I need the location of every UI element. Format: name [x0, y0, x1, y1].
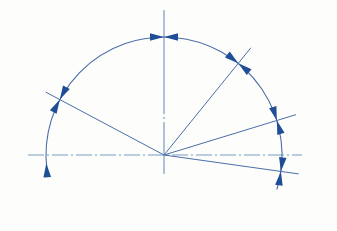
ray-right-below [164, 155, 299, 174]
marker-right-below [275, 157, 286, 186]
diagram-canvas [0, 0, 337, 231]
ray-upper-right [164, 48, 251, 155]
ray-right-shallow [164, 115, 296, 155]
marker-left-terminator [43, 163, 51, 177]
angular-dimension-drawing [0, 0, 337, 231]
ray-upper-left [46, 92, 164, 155]
